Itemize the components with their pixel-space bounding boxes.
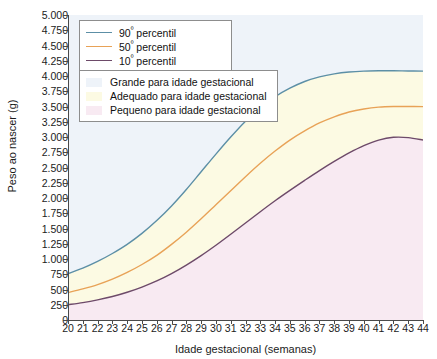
y-tick-mark: [63, 183, 68, 184]
legend-percentiles: 90º percentil50º percentil10º percentil: [79, 20, 232, 72]
x-tick-mark: [246, 320, 247, 324]
x-tick-mark: [231, 320, 232, 324]
x-tick-mark: [364, 320, 365, 324]
x-tick-mark: [408, 320, 409, 324]
x-axis-title: Idade gestacional (semanas): [68, 343, 423, 355]
y-tick-mark: [63, 91, 68, 92]
x-tick-mark: [275, 320, 276, 324]
x-tick-mark: [186, 320, 187, 324]
y-tick-label: 4.750: [6, 25, 68, 35]
x-tick-label: 44: [414, 323, 432, 334]
legend-item-label: 10º percentil: [119, 53, 176, 67]
y-tick-label: 5.000: [6, 10, 68, 20]
x-tick-mark: [83, 320, 84, 324]
x-tick-mark: [423, 320, 424, 324]
y-tick-mark: [63, 122, 68, 123]
x-tick-mark: [393, 320, 394, 324]
x-tick-mark: [379, 320, 380, 324]
y-tick-mark: [63, 198, 68, 199]
x-tick-mark: [260, 320, 261, 324]
legend-item-label: 50º percentil: [119, 39, 176, 53]
x-tick-mark: [290, 320, 291, 324]
x-tick-mark: [112, 320, 113, 324]
legend-item-label: Pequeno para idade gestacional: [110, 104, 261, 116]
x-tick-mark: [305, 320, 306, 324]
y-tick-mark: [63, 76, 68, 77]
y-tick-mark: [63, 290, 68, 291]
x-tick-mark: [127, 320, 128, 324]
y-tick-label: 1.500: [6, 224, 68, 234]
legend-item-percentile: 90º percentil: [86, 25, 225, 39]
x-tick-mark: [68, 320, 69, 324]
x-tick-mark: [98, 320, 99, 324]
y-tick-mark: [63, 137, 68, 138]
legend-item-label: 90º percentil: [119, 25, 176, 39]
legend-item-classification: Pequeno para idade gestacional: [86, 103, 271, 117]
x-tick-mark: [349, 320, 350, 324]
y-tick-mark: [63, 229, 68, 230]
legend-band-swatch: [86, 106, 102, 115]
chart-container: 02505007501.0001.2501.5001.7502.0002.250…: [0, 0, 437, 359]
legend-band-swatch: [86, 78, 102, 87]
legend-item-label: Adequado para idade gestacional: [110, 90, 266, 102]
x-tick-mark: [172, 320, 173, 324]
y-tick-label: 4.000: [6, 71, 68, 81]
y-tick-mark: [63, 213, 68, 214]
x-tick-mark: [216, 320, 217, 324]
y-tick-mark: [63, 305, 68, 306]
y-tick-label: 500: [6, 285, 68, 295]
x-tick-mark: [157, 320, 158, 324]
y-tick-label: 250: [6, 300, 68, 310]
y-tick-mark: [63, 168, 68, 169]
y-tick-mark: [63, 107, 68, 108]
y-tick-mark: [63, 244, 68, 245]
legend-line-swatch: [86, 60, 112, 61]
legend-item-label: Grande para idade gestacional: [110, 76, 254, 88]
y-tick-label: 4.250: [6, 56, 68, 66]
y-tick-label: 1.000: [6, 254, 68, 264]
y-tick-mark: [63, 259, 68, 260]
legend-item-percentile: 10º percentil: [86, 53, 225, 67]
x-tick-mark: [201, 320, 202, 324]
legend-item-classification: Adequado para idade gestacional: [86, 89, 271, 103]
x-tick-mark: [334, 320, 335, 324]
legend-classifications: Grande para idade gestacionalAdequado pa…: [79, 70, 278, 122]
y-tick-mark: [63, 152, 68, 153]
y-tick-label: 1.750: [6, 208, 68, 218]
y-tick-mark: [63, 274, 68, 275]
y-tick-label: 4.500: [6, 41, 68, 51]
y-tick-label: 1.250: [6, 239, 68, 249]
legend-line-swatch: [86, 46, 112, 47]
legend-item-classification: Grande para idade gestacional: [86, 75, 271, 89]
y-axis-title: Peso ao nascer (g): [6, 86, 18, 206]
legend-band-swatch: [86, 92, 102, 101]
y-tick-mark: [63, 15, 68, 16]
y-tick-mark: [63, 61, 68, 62]
y-tick-label: 750: [6, 269, 68, 279]
x-tick-mark: [319, 320, 320, 324]
legend-line-swatch: [86, 32, 112, 33]
legend-item-percentile: 50º percentil: [86, 39, 225, 53]
y-tick-mark: [63, 46, 68, 47]
y-tick-mark: [63, 30, 68, 31]
x-tick-mark: [142, 320, 143, 324]
